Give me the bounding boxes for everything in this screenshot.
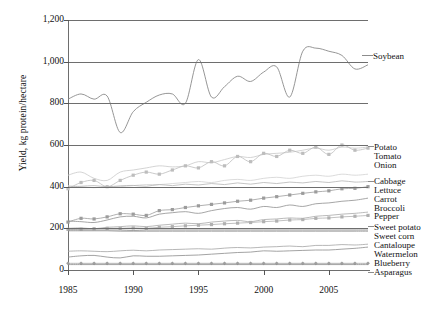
x-tick-label: 2000 (254, 285, 273, 295)
data-point-marker (119, 179, 122, 182)
data-point-marker (79, 181, 82, 184)
data-point-marker (301, 192, 304, 195)
data-point-marker (171, 168, 174, 171)
series-label-list: PotatoTomatoOnionCabbageLettuceCarrotBro… (372, 0, 441, 313)
series-line-cantaloupe (68, 244, 368, 252)
x-tick-mark (329, 270, 330, 275)
x-tick-mark (198, 270, 199, 275)
series-line-soybean (68, 47, 368, 133)
series-label-asparagus: Asparagus (374, 268, 412, 277)
data-point-marker (262, 152, 265, 155)
data-point-marker (223, 222, 226, 225)
data-point-marker (223, 164, 226, 167)
series-line-lettuce (68, 187, 368, 222)
gridline (68, 228, 368, 229)
data-point-marker (184, 206, 187, 209)
gridline (68, 103, 368, 104)
x-tick-mark (133, 270, 134, 275)
data-point-marker (210, 203, 213, 206)
data-point-marker (210, 223, 213, 226)
data-point-marker (223, 201, 226, 204)
data-point-marker (275, 155, 278, 158)
y-tick-label: 200 (24, 223, 64, 233)
y-tick-mark (64, 62, 69, 63)
data-point-marker (171, 208, 174, 211)
data-point-marker (301, 218, 304, 221)
label-leader-line (368, 272, 374, 273)
data-point-marker (106, 215, 109, 218)
x-tick-label: 1995 (189, 285, 208, 295)
data-point-marker (132, 213, 135, 216)
y-tick-mark (64, 103, 69, 104)
data-point-marker (340, 215, 343, 218)
series-label-pepper: Pepper (374, 212, 399, 221)
data-point-marker (366, 214, 369, 217)
x-tick-label: 1990 (124, 285, 143, 295)
x-tick-mark (264, 270, 265, 275)
data-point-marker (262, 220, 265, 223)
data-point-marker (236, 155, 239, 158)
data-point-marker (249, 199, 252, 202)
data-point-marker (314, 217, 317, 220)
data-point-marker (301, 152, 304, 155)
label-leader-line-soybean (362, 55, 373, 56)
gridline (68, 145, 368, 146)
data-point-marker (236, 200, 239, 203)
series-line-broccoli (68, 212, 368, 229)
data-point-marker (184, 224, 187, 227)
y-tick-mark (64, 187, 69, 188)
y-tick-label: 400 (24, 182, 64, 192)
data-point-marker (132, 174, 135, 177)
data-point-marker (92, 217, 95, 220)
y-tick-mark (64, 20, 69, 21)
data-point-marker (353, 149, 356, 152)
data-point-marker (236, 222, 239, 225)
y-tick-mark (64, 228, 69, 229)
x-tick-label: 1985 (59, 285, 78, 295)
y-tick-label: 800 (24, 98, 64, 108)
series-label-onion: Onion (374, 161, 397, 170)
y-tick-label: 1,200 (24, 15, 64, 25)
data-point-marker (262, 197, 265, 200)
data-point-marker (366, 147, 369, 150)
data-point-marker (249, 160, 252, 163)
series-line-carrot (68, 198, 368, 222)
x-tick-mark (68, 270, 69, 275)
plot-area (68, 20, 368, 270)
data-point-marker (353, 215, 356, 218)
data-point-marker (158, 209, 161, 212)
data-point-marker (158, 173, 161, 176)
data-point-marker (197, 204, 200, 207)
x-tick-label: 2005 (319, 285, 338, 295)
data-point-marker (210, 160, 213, 163)
gridline (68, 20, 368, 21)
label-leader-line (368, 181, 374, 182)
data-point-marker (197, 166, 200, 169)
data-point-marker (197, 224, 200, 227)
data-point-marker (92, 179, 95, 182)
data-point-marker (327, 189, 330, 192)
chart-container: Yield, kg protein/hectare 02004006008001… (0, 0, 441, 313)
data-point-marker (314, 190, 317, 193)
data-point-marker (184, 164, 187, 167)
label-leader-line (368, 146, 374, 147)
data-point-marker (288, 218, 291, 221)
y-tick-mark (64, 145, 69, 146)
data-point-marker (275, 219, 278, 222)
data-point-marker (145, 214, 148, 217)
data-point-marker (79, 217, 82, 220)
y-axis-ticks: 02004006008001,0001,200 (22, 0, 64, 313)
data-point-marker (288, 149, 291, 152)
y-tick-label: 600 (24, 140, 64, 150)
y-tick-label: 0 (24, 265, 64, 275)
label-leader-line (368, 226, 374, 227)
data-point-marker (327, 153, 330, 156)
gridline (68, 187, 368, 188)
gridline (68, 270, 368, 271)
data-point-marker (249, 221, 252, 224)
data-point-marker (145, 170, 148, 173)
y-tick-label: 1,000 (24, 57, 64, 67)
gridline (68, 62, 368, 63)
data-point-marker (119, 212, 122, 215)
data-point-marker (275, 195, 278, 198)
